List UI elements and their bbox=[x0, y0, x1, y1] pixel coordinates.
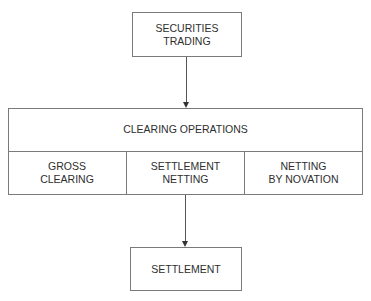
edge-netting-to-settlement bbox=[185, 195, 186, 242]
settlement-netting-label: SETTLEMENT NETTING bbox=[151, 160, 220, 186]
settlement-netting-node: SETTLEMENT NETTING bbox=[127, 152, 244, 194]
netting-by-novation-node: NETTING BY NOVATION bbox=[245, 152, 362, 194]
gross-clearing-node: GROSS CLEARING bbox=[8, 152, 126, 194]
settlement-label: SETTLEMENT bbox=[151, 263, 220, 276]
gross-clearing-label: GROSS CLEARING bbox=[40, 160, 94, 186]
securities-trading-label: SECURITIES TRADING bbox=[155, 22, 218, 48]
clearing-operations-title: CLEARING OPERATIONS bbox=[8, 108, 363, 151]
settlement-node: SETTLEMENT bbox=[130, 247, 242, 291]
edge-trading-to-clearing bbox=[186, 57, 187, 103]
netting-by-novation-label: NETTING BY NOVATION bbox=[268, 160, 338, 186]
securities-trading-node: SECURITIES TRADING bbox=[132, 12, 242, 57]
clearing-operations-label: CLEARING OPERATIONS bbox=[123, 123, 248, 136]
